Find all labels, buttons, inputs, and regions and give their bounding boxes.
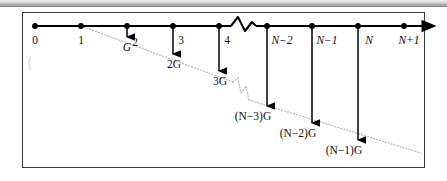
tick-label-1: 1: [78, 34, 84, 46]
drop-label-2g: 2G: [167, 58, 181, 70]
tick-label-n+1: N+1: [397, 34, 419, 46]
tick-label-n-1: N−1: [315, 34, 337, 46]
number-line-diagram: 0 1 2 3 4 N−2 N−1 N N+1 G 2G 3G (N−3)G (…: [0, 0, 447, 181]
drop-label-g: G: [123, 41, 132, 53]
drop-label-n-1g: (N−1)G: [326, 144, 363, 157]
tick-dot-n+1: [401, 23, 407, 29]
axis-break-zigzag: [231, 17, 256, 31]
axis-line: [33, 17, 424, 31]
drop-label-3g: 3G: [213, 75, 227, 87]
tick-label-n-2: N−2: [270, 34, 292, 46]
tick-label-3: 3: [178, 34, 184, 46]
tick-label-0: 0: [32, 34, 38, 46]
tick-dot-0: [32, 23, 38, 29]
tick-dot-1: [78, 23, 84, 29]
tick-label-4: 4: [224, 34, 230, 46]
tick-label-2: 2: [132, 36, 138, 48]
drop-label-n-2g: (N−2)G: [280, 127, 317, 140]
drop-label-n-3g: (N−3)G: [235, 110, 272, 123]
scan-artifact-mark: [29, 57, 31, 70]
figure-root: 0 1 2 3 4 N−2 N−1 N N+1 G 2G 3G (N−3)G (…: [0, 0, 447, 181]
tick-label-n: N: [364, 34, 374, 46]
